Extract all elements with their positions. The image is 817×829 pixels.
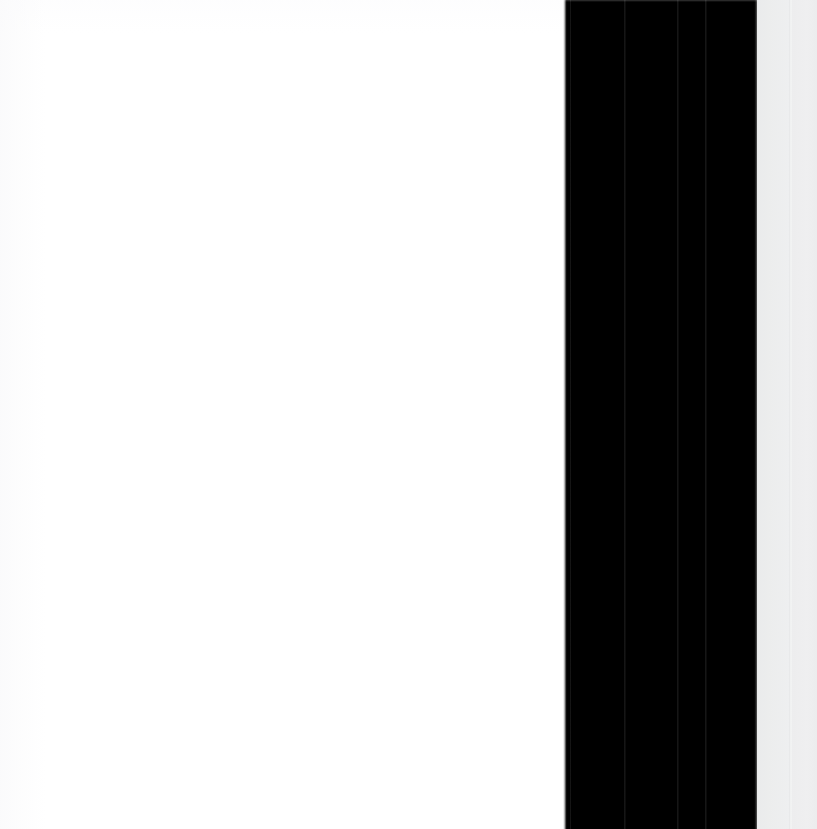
content-surface[interactable]: Content Surface: [0, 0, 566, 829]
panel-seam-4: [705, 0, 707, 829]
dark-panel-top-hairline: [563, 0, 757, 2]
panel-seam-1: [570, 0, 571, 829]
screen-capture: Content Surface Dark Panel Gray Strip A …: [0, 0, 817, 829]
gray-strip-b-label: Gray Strip B: [792, 0, 793, 1]
gray-strip-b[interactable]: Gray Strip B: [792, 0, 817, 829]
gray-strip-a-label: Gray Strip A: [757, 0, 758, 1]
dark-panel-left-edge: [563, 0, 567, 829]
dark-panel[interactable]: Dark Panel: [566, 0, 757, 829]
panel-seam-3: [677, 0, 679, 829]
gray-strip-a[interactable]: Gray Strip A: [757, 0, 790, 829]
content-surface-texture: [0, 0, 566, 829]
panel-seam-2: [624, 0, 626, 829]
content-surface-label: Content Surface: [0, 0, 1, 1]
